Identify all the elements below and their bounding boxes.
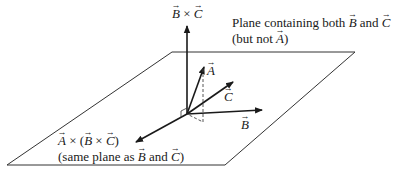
vector-a-arrow (187, 67, 204, 114)
label-a-text: A (207, 64, 215, 78)
label-axbxc-b: B (84, 134, 92, 148)
label-axbxc-a: A (58, 134, 66, 148)
label-c: C (224, 90, 233, 104)
label-a: A (207, 64, 215, 78)
label-bxc: B × C (172, 7, 202, 21)
note-and: and (146, 149, 171, 164)
caption-and: and (357, 15, 382, 30)
caption-but-not: (but not (232, 31, 276, 46)
plane-caption-line2: (but not A) (232, 32, 288, 46)
label-bxc-c: C (194, 7, 203, 21)
plane-caption-line1: Plane containing both B and C (232, 16, 391, 30)
label-bxc-times: × (180, 6, 194, 21)
note-close: ) (180, 149, 184, 164)
label-b: B (241, 118, 249, 132)
caption-c: C (382, 16, 391, 30)
caption-text: Plane containing both (232, 15, 349, 30)
note-b: B (138, 150, 146, 164)
vector-axbxc-arrow (136, 114, 187, 142)
label-axbxc: A × (B × C) (58, 134, 119, 148)
label-axbxc-op2: × (92, 133, 106, 148)
note-same-plane: (same plane as (58, 149, 138, 164)
caption-paren: ) (284, 31, 288, 46)
vector-b-arrow (187, 110, 262, 114)
caption-a: A (276, 32, 284, 46)
label-axbxc-close: ) (115, 133, 119, 148)
caption-b: B (349, 16, 357, 30)
label-axbxc-c: C (106, 134, 115, 148)
label-bxc-b: B (172, 7, 180, 21)
label-axbxc-note: (same plane as B and C) (58, 150, 184, 164)
label-b-text: B (241, 118, 249, 132)
note-c: C (171, 150, 180, 164)
label-c-text: C (224, 90, 233, 104)
label-axbxc-op1: × ( (66, 133, 84, 148)
